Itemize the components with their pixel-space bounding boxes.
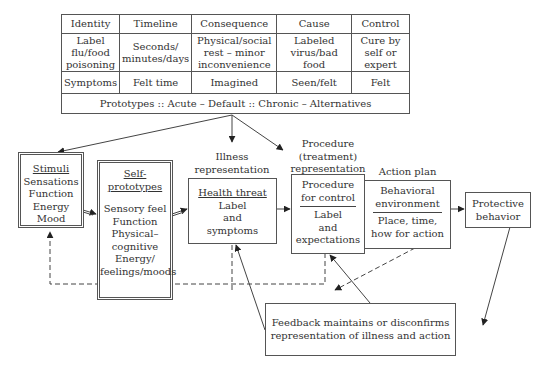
cell: Imagined bbox=[192, 72, 277, 94]
self-prototypes-box: Self-prototypes Sensory feel Function Ph… bbox=[97, 160, 173, 300]
cell: Label flu/food poisoning bbox=[62, 34, 120, 72]
cell: Symptoms bbox=[62, 72, 120, 94]
cell: Seconds/ minutes/days bbox=[120, 34, 192, 72]
action-plan-line: Behavioral bbox=[365, 185, 450, 198]
health-threat-item: and bbox=[189, 212, 276, 225]
illness-representation-caption: Illness representation bbox=[180, 151, 284, 176]
self-prototypes-item: Function bbox=[100, 216, 170, 229]
table-header-row: Identity Timeline Consequence Cause Cont… bbox=[62, 15, 410, 34]
action-plan-line: how for action bbox=[365, 228, 450, 241]
cell: Felt time bbox=[120, 72, 192, 94]
stimuli-item: Sensations bbox=[21, 176, 81, 189]
health-threat-title: Health threat bbox=[189, 187, 276, 200]
divider bbox=[373, 212, 442, 213]
stimuli-item: Mood bbox=[21, 213, 81, 226]
caption-line: representation bbox=[180, 164, 284, 177]
self-prototypes-item: Physical– bbox=[100, 228, 170, 241]
header-timeline: Timeline bbox=[120, 15, 192, 34]
feedback-line: Feedback maintains or disconfirms bbox=[266, 317, 455, 330]
illness-attributes-table: Identity Timeline Consequence Cause Cont… bbox=[61, 14, 410, 114]
health-threat-item: symptoms bbox=[189, 225, 276, 238]
divider bbox=[300, 206, 356, 207]
header-cause: Cause bbox=[277, 15, 352, 34]
action-plan-box: Behavioral environment Place, time, how … bbox=[364, 180, 451, 249]
prototypes-row: Prototypes :: Acute – Default :: Chronic… bbox=[62, 94, 410, 114]
self-prototypes-title: Self-prototypes bbox=[100, 168, 170, 193]
stimuli-box: Stimuli Sensations Function Energy Mood bbox=[18, 152, 84, 228]
feedback-box: Feedback maintains or disconfirms repres… bbox=[265, 303, 456, 356]
action-plan-line: Place, time, bbox=[365, 215, 450, 228]
caption-line: Illness bbox=[180, 151, 284, 164]
procedure-item: expectations bbox=[292, 234, 364, 247]
cell: Seen/felt bbox=[277, 72, 352, 94]
caption-line: Procedure bbox=[290, 138, 366, 151]
stimuli-item: Function bbox=[21, 188, 81, 201]
procedure-title: for control bbox=[292, 192, 364, 205]
procedure-title: Procedure bbox=[292, 179, 364, 192]
procedure-item: and bbox=[292, 222, 364, 235]
table-row: Label flu/food poisoning Seconds/ minute… bbox=[62, 34, 410, 72]
header-consequence: Consequence bbox=[192, 15, 277, 34]
procedure-for-control-box: Procedure for control Label and expectat… bbox=[291, 174, 365, 254]
action-plan-line: environment bbox=[365, 198, 450, 211]
procedure-item: Label bbox=[292, 209, 364, 222]
cell: Physical/social rest – minor inconvenien… bbox=[192, 34, 277, 72]
action-plan-caption: Action plan bbox=[364, 166, 451, 179]
health-threat-box: Health threat Label and symptoms bbox=[188, 178, 277, 244]
arrow-to-stimuli bbox=[58, 115, 232, 152]
cell: Cure by self or expert bbox=[351, 34, 409, 72]
self-prototypes-item: feelings/moods bbox=[100, 266, 170, 279]
header-identity: Identity bbox=[62, 15, 120, 34]
protective-line: Protective bbox=[466, 198, 530, 211]
prototypes-cell: Prototypes :: Acute – Default :: Chronic… bbox=[62, 94, 410, 114]
procedure-representation-caption: Procedure (treatment) representation bbox=[290, 138, 366, 176]
self-prototypes-item: cognitive bbox=[100, 241, 170, 254]
stimuli-item: Energy bbox=[21, 201, 81, 214]
header-control: Control bbox=[351, 15, 409, 34]
cell: Labeled virus/bad food bbox=[277, 34, 352, 72]
feedback-line: representation of illness and action bbox=[266, 330, 455, 343]
caption-line: (treatment) bbox=[290, 151, 366, 164]
protective-behavior-box: Protective behavior bbox=[465, 192, 531, 228]
arrow-to-procedure bbox=[232, 115, 283, 150]
self-prototypes-item: Energy/ bbox=[100, 253, 170, 266]
health-threat-item: Label bbox=[189, 200, 276, 213]
self-prototypes-item: Sensory feel bbox=[100, 203, 170, 216]
stimuli-title: Stimuli bbox=[21, 163, 81, 176]
protective-line: behavior bbox=[466, 211, 530, 224]
cell: Felt bbox=[351, 72, 409, 94]
table-row: Symptoms Felt time Imagined Seen/felt Fe… bbox=[62, 72, 410, 94]
